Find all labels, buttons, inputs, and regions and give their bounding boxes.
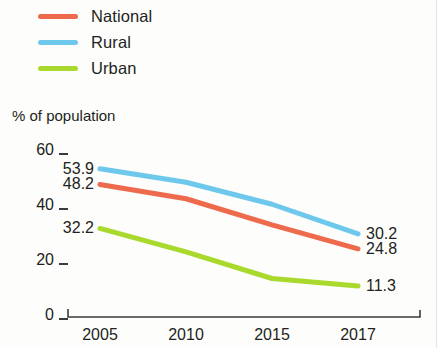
x-tick-label-2010: 2010 (168, 326, 204, 344)
y-tick-label: 20 (36, 251, 54, 269)
y-tick-40: 40 (0, 196, 68, 214)
series-line-rural (100, 169, 358, 234)
y-tick-label: 0 (45, 306, 54, 324)
y-tick-mark (59, 318, 68, 320)
end-value-rural: 30.2 (366, 225, 397, 243)
start-value-rural: 53.9 (63, 160, 94, 178)
end-value-urban: 11.3 (366, 277, 396, 295)
y-tick-label: 40 (36, 196, 54, 214)
y-tick-mark (59, 263, 68, 265)
chart-container: National Rural Urban % of population 604… (0, 0, 437, 348)
y-tick-20: 20 (0, 251, 68, 269)
x-tick-label-2015: 2015 (254, 326, 290, 344)
x-tick-label-2017: 2017 (340, 326, 376, 344)
start-value-national: 48.2 (63, 175, 94, 193)
x-tick-label-2005: 2005 (82, 326, 118, 344)
y-tick-mark (59, 208, 68, 210)
y-tick-0: 0 (0, 306, 68, 324)
y-tick-mark (59, 153, 68, 155)
y-tick-60: 60 (0, 141, 68, 159)
axis-line (68, 309, 420, 317)
y-tick-label: 60 (36, 141, 54, 159)
start-value-urban: 32.2 (63, 219, 94, 237)
